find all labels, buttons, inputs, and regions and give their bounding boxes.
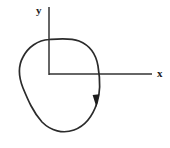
x-axis-label: x [157, 67, 163, 79]
closed-curve-path [20, 39, 100, 132]
curve-diagram-svg: y x [0, 0, 170, 148]
y-axis-label: y [36, 4, 42, 16]
figure-canvas: y x [0, 0, 170, 148]
